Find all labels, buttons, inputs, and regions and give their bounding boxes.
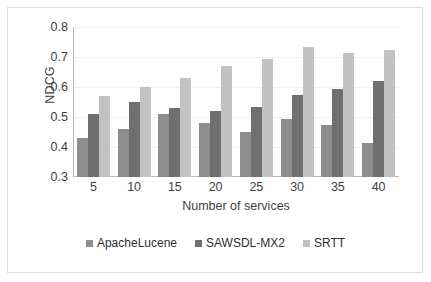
legend-label: SRTT	[314, 236, 345, 250]
x-axis-tick-label: 40	[358, 180, 399, 194]
bar[interactable]	[373, 81, 384, 177]
bar[interactable]	[332, 89, 343, 178]
bar-group	[318, 27, 359, 177]
x-axis-tick-label: 25	[236, 180, 277, 194]
legend-swatch-icon	[195, 240, 202, 247]
legend-swatch-icon	[86, 240, 93, 247]
bar[interactable]	[199, 123, 210, 177]
bar[interactable]	[129, 102, 140, 177]
bar[interactable]	[77, 138, 88, 177]
y-axis-tick-label: 0.7	[42, 51, 68, 64]
bar[interactable]	[251, 107, 262, 178]
bar[interactable]	[169, 108, 180, 177]
y-axis-tick-label: 0.6	[42, 81, 68, 94]
bar[interactable]	[321, 125, 332, 178]
legend-label: SAWSDL-MX2	[206, 236, 285, 250]
bar-chart: NDCG 0.80.70.60.50.40.3 510152025303540 …	[0, 0, 431, 282]
bar[interactable]	[210, 111, 221, 177]
bar[interactable]	[362, 143, 373, 178]
bar[interactable]	[262, 59, 273, 178]
x-axis-tick-label: 5	[73, 180, 114, 194]
bar-group	[358, 27, 399, 177]
bar-group	[73, 27, 114, 177]
y-axis-tick-label: 0.4	[42, 141, 68, 154]
x-axis-title: Number of services	[73, 199, 399, 213]
plot-area	[73, 27, 399, 177]
bar[interactable]	[158, 114, 169, 177]
bar[interactable]	[221, 66, 232, 177]
bar[interactable]	[99, 96, 110, 177]
y-axis-tick-label: 0.8	[42, 21, 68, 34]
legend-item[interactable]: SAWSDL-MX2	[195, 236, 285, 250]
bar-group	[195, 27, 236, 177]
bar[interactable]	[180, 78, 191, 177]
legend-item[interactable]: SRTT	[303, 236, 345, 250]
x-axis-tick-labels: 510152025303540	[73, 180, 399, 194]
bar[interactable]	[303, 47, 314, 178]
bar[interactable]	[118, 129, 129, 177]
y-axis-tick-label: 0.5	[42, 111, 68, 124]
chart-page: NDCG 0.80.70.60.50.40.3 510152025303540 …	[0, 0, 431, 282]
legend-item[interactable]: ApacheLucene	[86, 236, 177, 250]
bar-group	[114, 27, 155, 177]
bar[interactable]	[140, 87, 151, 177]
bar-group	[277, 27, 318, 177]
legend-label: ApacheLucene	[97, 236, 177, 250]
x-axis-tick-label: 20	[195, 180, 236, 194]
bar[interactable]	[240, 132, 251, 177]
bar[interactable]	[292, 95, 303, 178]
legend-swatch-icon	[303, 240, 310, 247]
bar[interactable]	[343, 53, 354, 178]
x-axis-tick-label: 30	[277, 180, 318, 194]
x-axis-tick-label: 35	[318, 180, 359, 194]
bar-groups	[73, 27, 399, 177]
y-axis-tick-label: 0.3	[42, 171, 68, 184]
bar[interactable]	[281, 119, 292, 178]
bar-group	[155, 27, 196, 177]
x-axis-tick-label: 10	[114, 180, 155, 194]
x-axis-tick-label: 15	[155, 180, 196, 194]
bar[interactable]	[88, 114, 99, 177]
chart-legend: ApacheLuceneSAWSDL-MX2SRTT	[0, 236, 431, 250]
bar[interactable]	[384, 50, 395, 178]
bar-group	[236, 27, 277, 177]
